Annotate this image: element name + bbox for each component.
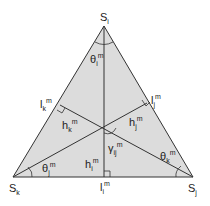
triangle-diagram: Si Sk Sj lkm ljm lim hkm hjm him θim θjm… <box>0 0 210 206</box>
foot-label-left: lkm <box>40 97 52 112</box>
vertex-label-bottom-left: Sk <box>9 182 20 196</box>
vertex-label-bottom-right: Sj <box>188 182 197 197</box>
foot-label-right: ljm <box>151 93 161 109</box>
foot-label-bottom: lim <box>100 180 110 195</box>
vertex-label-top: Si <box>100 11 109 25</box>
